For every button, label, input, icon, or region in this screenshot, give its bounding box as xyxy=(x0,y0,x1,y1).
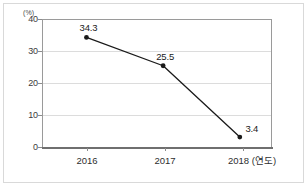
y-tick-label-20: 20 xyxy=(4,79,38,88)
x-tick-mark-2016 xyxy=(87,148,88,151)
plot-area xyxy=(42,19,272,148)
x-tick-mark-2017 xyxy=(165,148,166,151)
x-tick-mark-2018 xyxy=(243,148,244,151)
x-tick-label-2016: 2016 xyxy=(76,155,97,166)
y-axis: (%) 40 30 20 10 0 xyxy=(0,0,38,187)
x-tick-label-2017: 2017 xyxy=(154,155,175,166)
y-tick-label-30: 30 xyxy=(4,47,38,56)
point-label-2017: 25.5 xyxy=(156,52,174,62)
gridline-10 xyxy=(43,115,271,116)
gridline-20 xyxy=(43,83,271,84)
x-axis-line xyxy=(42,147,273,149)
y-tick-label-40: 40 xyxy=(4,15,38,24)
point-label-2018: 3.4 xyxy=(245,124,258,134)
chart-figure: (%) 40 30 20 10 0 2016 2017 2018 (연도) 34… xyxy=(0,0,308,187)
y-tick-label-10: 10 xyxy=(4,111,38,120)
y-tick-label-0: 0 xyxy=(4,143,38,152)
x-tick-label-2018: 2018 (연도) xyxy=(228,155,276,166)
point-label-2016: 34.3 xyxy=(80,23,98,33)
